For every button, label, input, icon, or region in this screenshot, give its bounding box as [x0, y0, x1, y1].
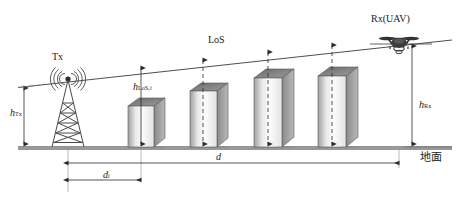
los-label: LoS [208, 35, 225, 45]
ground-label: 地面 [420, 152, 442, 163]
dimension-extension-lines [68, 146, 410, 192]
rx-uav-label: Rx(UAV) [371, 14, 410, 24]
h-tx-sub: Tx [15, 110, 22, 117]
building-3 [254, 69, 294, 147]
d-i-sub: i [108, 172, 110, 179]
d-base: d [216, 151, 221, 162]
building-2 [190, 83, 228, 147]
d-label: d [216, 152, 221, 162]
tx-label: Tx [52, 52, 63, 62]
h-los-i-label: hLoS,i [133, 82, 152, 92]
h-rx-label: hRx [419, 100, 431, 110]
los-line [18, 40, 452, 88]
diagram-canvas: Tx Rx(UAV) LoS hLoS,i hTx hRx d di 地面 [0, 0, 459, 207]
h-tx-label: hTx [10, 108, 22, 118]
diagram-svg [0, 0, 459, 207]
ground-line [18, 147, 452, 150]
building-1 [128, 98, 165, 147]
tx-tower-icon [50, 68, 85, 148]
building-4 [318, 67, 358, 147]
quadcopter-drone-icon [370, 37, 432, 54]
h-rx-sub: Rx [424, 102, 431, 109]
h-los-sub: LoS, [138, 84, 150, 91]
h-los-sub-i: i [150, 84, 152, 91]
d-i-label: di [103, 170, 110, 180]
